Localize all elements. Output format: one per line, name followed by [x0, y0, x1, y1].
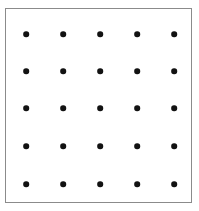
lattice-dot	[23, 68, 29, 74]
lattice-dot	[23, 105, 29, 111]
lattice-dot	[60, 31, 66, 37]
lattice-dot	[171, 31, 177, 37]
lattice-dot	[134, 31, 140, 37]
lattice-dot	[60, 181, 66, 187]
lattice-dot	[134, 68, 140, 74]
lattice-dot	[60, 68, 66, 74]
lattice-dot	[97, 68, 103, 74]
lattice-dot	[171, 105, 177, 111]
lattice-dot	[134, 181, 140, 187]
lattice-dot	[134, 105, 140, 111]
figure-root	[0, 0, 199, 211]
lattice-frame-border	[5, 8, 192, 203]
lattice-dot	[97, 105, 103, 111]
lattice-dot	[23, 143, 29, 149]
lattice-dot	[60, 143, 66, 149]
lattice-dot	[134, 143, 140, 149]
lattice-dot	[60, 105, 66, 111]
lattice-plot-surface	[6, 9, 191, 202]
lattice-dot	[23, 31, 29, 37]
lattice-dot	[171, 68, 177, 74]
lattice-dot	[171, 143, 177, 149]
lattice-dot	[97, 181, 103, 187]
lattice-dot	[23, 181, 29, 187]
lattice-dot	[171, 181, 177, 187]
lattice-dot	[97, 143, 103, 149]
lattice-dot	[97, 31, 103, 37]
